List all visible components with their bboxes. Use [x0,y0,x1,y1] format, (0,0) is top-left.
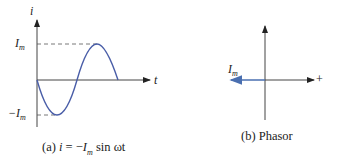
y-axis-label: i [30,4,33,19]
panel-a-sine-plot [37,20,150,127]
plus-label: + [316,72,323,87]
trough-label: −Im [8,106,26,122]
peak-label: Im [15,36,25,52]
panel-b-phasor [231,26,314,120]
caption-b: (b) Phasor [241,129,293,144]
caption-a: (a) i = −Im sin ωt [42,140,125,157]
x-axis-label: t [154,73,157,88]
phasor-label: Im [228,62,238,78]
